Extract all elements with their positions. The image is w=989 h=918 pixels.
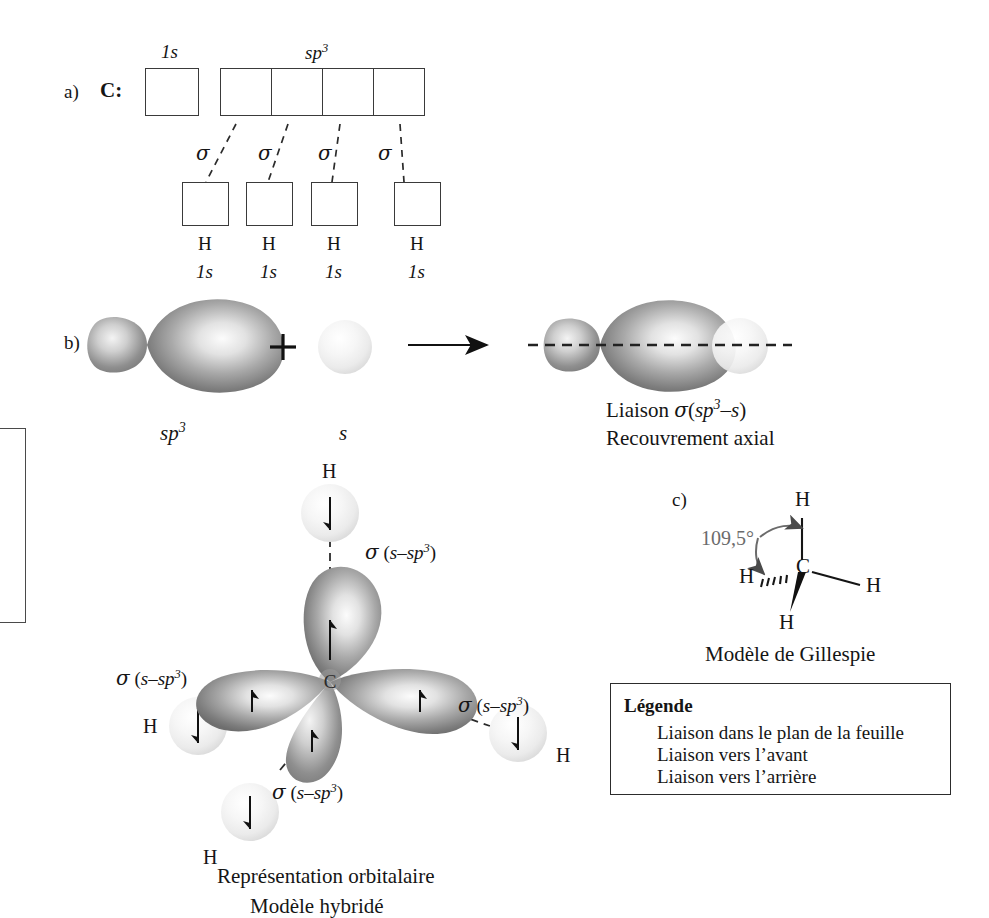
gillespie-hydrogen-bottom: H <box>779 612 794 633</box>
orbital-box-h-1[interactable] <box>182 182 229 226</box>
orbital-box-sp3-1[interactable] <box>220 68 272 116</box>
sigma-dash-right: – <box>490 695 500 716</box>
legend-title: Légende <box>624 696 693 715</box>
legend-item-hash-label: Liaison vers l’arrière <box>657 766 816 787</box>
result-dash: – <box>721 398 732 422</box>
gillespie-carbon-label: C <box>796 556 810 577</box>
part-b-result-line1: Liaison σ(sp3–s) <box>606 398 746 421</box>
hybrid-hydrogen-label-right: H <box>556 745 570 765</box>
result-sigma-symbol: σ <box>674 398 688 422</box>
hybrid-caption-line1: Représentation orbitalaire <box>217 866 435 887</box>
sigma-symbol-bottom: σ <box>272 780 286 804</box>
hydrogen-orbital-4: 1s <box>408 262 425 281</box>
sigma-sp-bottom: sp <box>314 782 331 803</box>
sigma-paren-close-top: ) <box>430 542 436 563</box>
legend-item-wedge: Liaison vers l’avant <box>657 744 808 766</box>
sigma-symbol-left: σ <box>116 666 130 690</box>
orbital-label-1s: 1s <box>161 42 178 61</box>
gillespie-hydrogen-right: H <box>866 575 881 596</box>
orbital-label-sp3: sp3 <box>305 42 328 62</box>
hydrogen-label-1: H <box>198 234 212 253</box>
part-a-marker: a) <box>64 82 79 101</box>
s-orbital-sphere <box>318 320 372 374</box>
orbital-box-h-2[interactable] <box>246 182 293 226</box>
result-paren-close: ) <box>739 398 746 422</box>
hydrogen-label-3: H <box>327 234 341 253</box>
sigma-label-3: σ <box>318 143 332 163</box>
gillespie-caption: Modèle de Gillespie <box>705 644 875 665</box>
result-sp-exp: 3 <box>714 397 721 412</box>
part-c-marker: c) <box>672 490 687 509</box>
hydrogen-label-4: H <box>410 234 424 253</box>
hybrid-hydrogen-label-left: H <box>143 716 157 736</box>
result-liaison-word: Liaison <box>606 398 674 422</box>
hydrogen-label-2: H <box>262 234 276 253</box>
legend-item-plain: Liaison dans le plan de la feuille <box>657 722 904 744</box>
legend-item-wedge-label: Liaison vers l’avant <box>657 744 808 765</box>
sigma-sp-top: sp <box>407 542 424 563</box>
s-shape-label: s <box>339 421 347 445</box>
hybrid-sigma-label-right: σ (s–sp3) <box>458 695 529 715</box>
hybrid-hydrogen-label-top: H <box>322 461 336 481</box>
figure-root: sp3 s <box>0 0 989 918</box>
sigma-symbol-right: σ <box>458 693 472 717</box>
sigma-label-1: σ <box>196 143 210 163</box>
part-a-atom-label: C: <box>100 80 122 101</box>
carbon-center-label: C <box>324 671 337 692</box>
hybrid-caption-line2: Modèle hybridé <box>250 896 384 917</box>
orbital-box-sp3-2[interactable] <box>271 68 323 116</box>
hydrogen-orbital-3: 1s <box>325 262 342 281</box>
result-s: s <box>731 398 739 422</box>
gillespie-hydrogen-left: H <box>739 566 754 587</box>
hybrid-hydrogen-label-bottom: H <box>203 847 217 867</box>
result-paren-open: ( <box>688 398 695 422</box>
sp3-shape-label: sp3 <box>160 420 186 445</box>
orbital-box-h-3[interactable] <box>311 182 358 226</box>
sigma-paren-close-left: ) <box>181 668 187 689</box>
sigma-label-4: σ <box>378 143 392 163</box>
sigma-paren-close-right: ) <box>523 695 529 716</box>
orbital-box-sp3-3[interactable] <box>322 68 374 116</box>
hybrid-sigma-label-bottom: σ (s–sp3) <box>272 782 343 802</box>
bond-angle-label: 109,5° <box>701 528 754 548</box>
orbital-box-h-4[interactable] <box>394 182 441 226</box>
orbital-box-sp3-4[interactable] <box>373 68 425 116</box>
part-b-result-line2: Recouvrement axial <box>606 428 775 449</box>
orbital-label-sp3-exp: 3 <box>322 41 328 55</box>
sigma-paren-close-bottom: ) <box>337 782 343 803</box>
orbital-label-sp3-base: sp <box>305 42 322 63</box>
sigma-sp-left: sp <box>158 668 175 689</box>
part-b-marker: b) <box>64 333 80 352</box>
sigma-label-2: σ <box>258 143 272 163</box>
gillespie-bonds <box>761 518 860 612</box>
hydrogen-orbital-2: 1s <box>260 262 277 281</box>
part-a-bond-connectors <box>206 124 404 182</box>
orbital-label-1s-text: 1s <box>161 41 178 62</box>
hydrogen-orbital-1: 1s <box>196 262 213 281</box>
result-sp: sp <box>695 398 714 422</box>
sigma-sp-right: sp <box>500 695 517 716</box>
legend-item-plain-label: Liaison dans le plan de la feuille <box>657 722 904 743</box>
gillespie-hydrogen-top: H <box>795 489 810 510</box>
sigma-dash-bottom: – <box>304 782 314 803</box>
sigma-dash-left: – <box>148 668 158 689</box>
legend-item-hash: Liaison vers l’arrière <box>657 766 816 788</box>
orbital-box-1s[interactable] <box>145 68 199 116</box>
hybrid-sigma-label-top: σ (s–sp3) <box>365 542 436 562</box>
sigma-symbol-top: σ <box>365 540 379 564</box>
hybrid-sigma-label-left: σ (s–sp3) <box>116 668 187 688</box>
sigma-dash-top: – <box>397 542 407 563</box>
sp3-orbital-shape <box>87 299 284 392</box>
